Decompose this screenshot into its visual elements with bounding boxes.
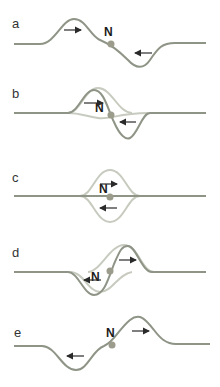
node-dot-e bbox=[109, 342, 116, 349]
panel-label-d: d bbox=[12, 245, 19, 260]
panel-c: c N bbox=[12, 170, 206, 222]
panel-d: d N bbox=[12, 245, 206, 295]
panel-label-b: b bbox=[12, 86, 19, 101]
node-label-a: N bbox=[104, 25, 113, 39]
node-label-d: N bbox=[91, 270, 100, 284]
panel-label-a: a bbox=[12, 16, 20, 31]
node-dot-d bbox=[107, 268, 114, 275]
panel-a: a N bbox=[12, 16, 206, 67]
node-dot-a bbox=[108, 41, 115, 48]
panel-label-c: c bbox=[12, 170, 19, 185]
panel-label-e: e bbox=[14, 325, 21, 340]
node-label-e: N bbox=[106, 326, 115, 340]
panel-b: b N bbox=[12, 86, 206, 138]
panel-e: e N bbox=[14, 317, 210, 370]
light-pulse-up-c bbox=[80, 170, 140, 196]
node-dot-b bbox=[108, 112, 115, 119]
wave-superposition-diagram: a N b N c N d N e bbox=[0, 0, 220, 387]
